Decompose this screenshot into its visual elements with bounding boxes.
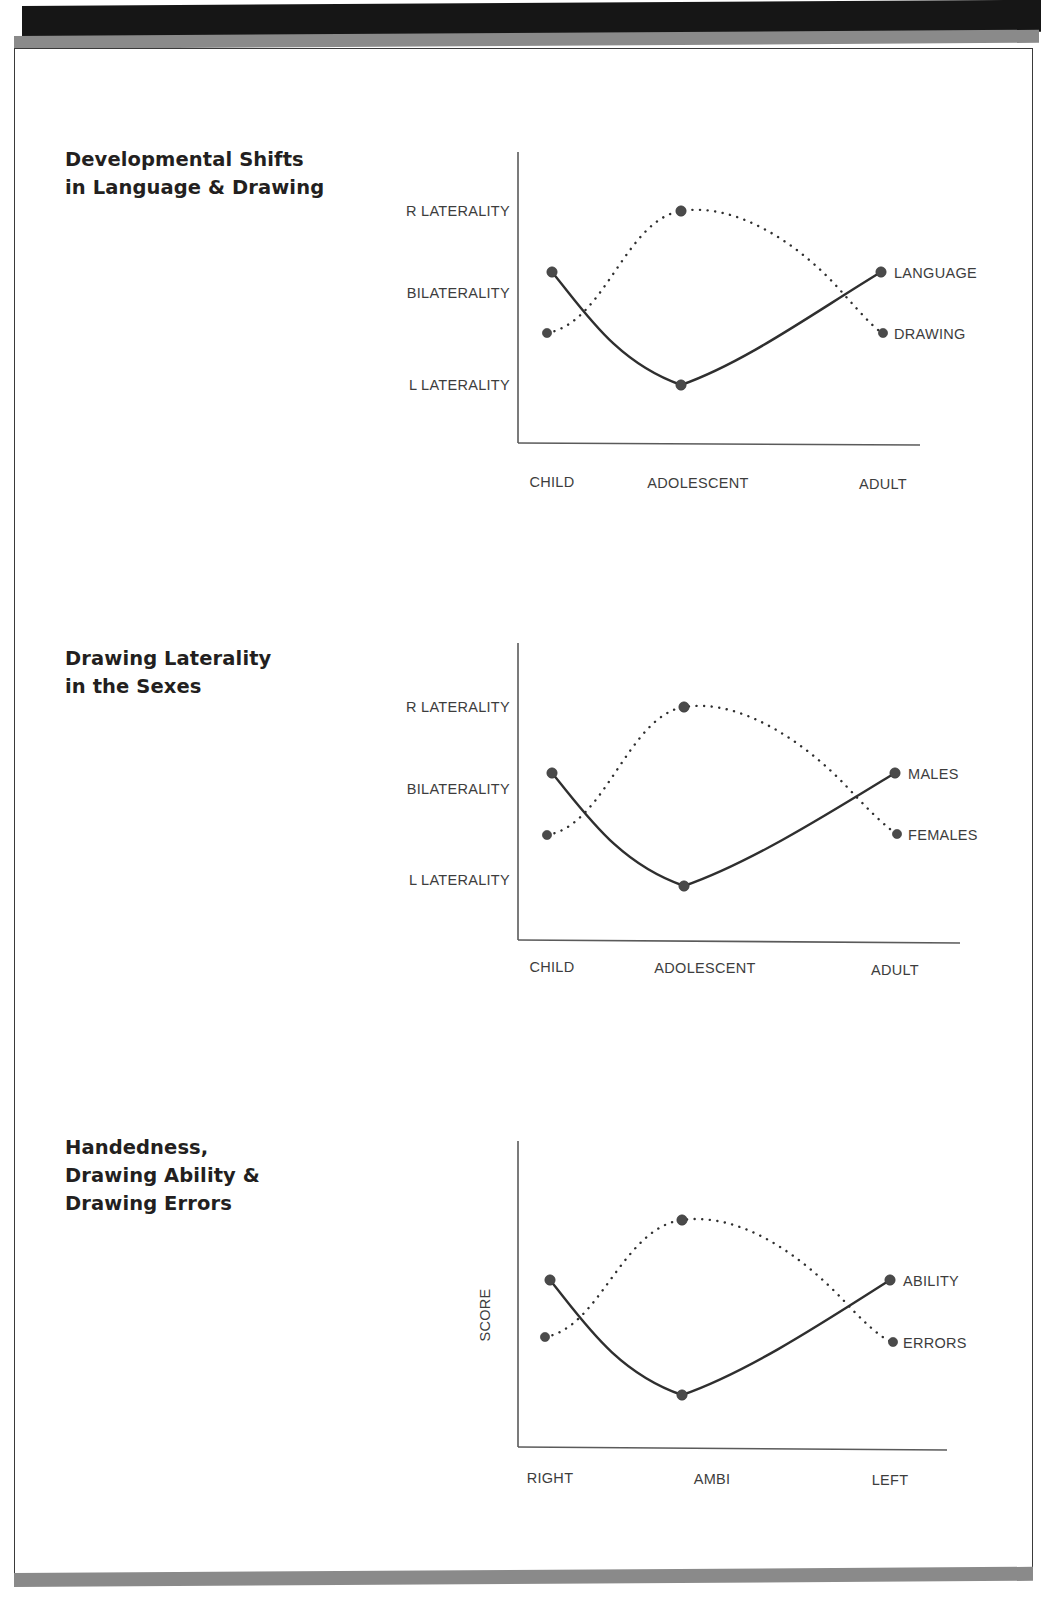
chart-3-solid-point-ambi bbox=[677, 1390, 687, 1400]
chart-2-solid-point-adolescent bbox=[679, 881, 689, 891]
chart-2-dotted-point-adolescent bbox=[679, 702, 689, 712]
section-title-developmental-shifts: Developmental Shifts in Language & Drawi… bbox=[65, 146, 324, 202]
chart-1-series-dotted-path bbox=[547, 210, 883, 333]
chart-handedness-ability-errors: SCORE RIGHT AMBI LEFT ABILITY ERRORS bbox=[450, 1125, 1010, 1495]
chart-1-dotted-point-adolescent bbox=[676, 206, 686, 216]
chart-3-xtick-0: RIGHT bbox=[527, 1470, 574, 1486]
chart-3-svg: SCORE RIGHT AMBI LEFT ABILITY ERRORS bbox=[450, 1125, 1010, 1495]
chart-2-xtick-2: ADULT bbox=[871, 962, 919, 978]
chart-3-series-solid-path bbox=[550, 1280, 890, 1395]
section-title-drawing-laterality-sexes: Drawing Laterality in the Sexes bbox=[65, 645, 271, 701]
chart-2-xtick-0: CHILD bbox=[529, 959, 574, 975]
chart-2-ytick-0: R LATERALITY bbox=[406, 699, 510, 715]
chart-3-dotted-point-left bbox=[888, 1337, 897, 1346]
chart-2-solid-point-child bbox=[547, 768, 557, 778]
page-canvas: Developmental Shifts in Language & Drawi… bbox=[0, 0, 1041, 1601]
chart-2-series-solid-path bbox=[552, 773, 895, 886]
chart-1-xtick-0: CHILD bbox=[529, 474, 574, 490]
chart-drawing-laterality-sexes: R LATERALITY BILATERALITY L LATERALITY C… bbox=[400, 630, 1000, 990]
chart-2-legend-solid: MALES bbox=[908, 766, 959, 782]
chart-1-ytick-0: R LATERALITY bbox=[406, 203, 510, 219]
chart-1-solid-point-child bbox=[547, 267, 557, 277]
chart-1-solid-point-adolescent bbox=[676, 380, 686, 390]
chart-3-y-axis-title: SCORE bbox=[477, 1288, 493, 1341]
section-title-handedness-ability-errors: Handedness, Drawing Ability & Drawing Er… bbox=[65, 1134, 260, 1218]
chart-1-legend-dotted: DRAWING bbox=[894, 326, 966, 342]
chart-2-legend-dotted: FEMALES bbox=[908, 827, 978, 843]
chart-2-ytick-2: L LATERALITY bbox=[409, 872, 510, 888]
chart-3-legend-solid: ABILITY bbox=[903, 1273, 959, 1289]
chart-3-dotted-point-ambi bbox=[677, 1215, 687, 1225]
chart-1-dotted-point-child bbox=[542, 328, 551, 337]
chart-1-legend-solid: LANGUAGE bbox=[894, 265, 977, 281]
chart-1-series-solid-path bbox=[552, 272, 881, 385]
chart-developmental-shifts: R LATERALITY BILATERALITY L LATERALITY C… bbox=[400, 140, 1000, 500]
chart-1-xtick-2: ADULT bbox=[859, 476, 907, 492]
chart-1-dotted-point-adult bbox=[878, 328, 887, 337]
chart-1-ytick-1: BILATERALITY bbox=[407, 285, 510, 301]
chart-1-solid-point-adult bbox=[876, 267, 886, 277]
chart-1-ytick-2: L LATERALITY bbox=[409, 377, 510, 393]
chart-2-x-axis bbox=[518, 940, 960, 943]
chart-3-xtick-1: AMBI bbox=[694, 1471, 731, 1487]
chart-3-dotted-point-right bbox=[540, 1332, 549, 1341]
chart-3-series-dotted-path bbox=[545, 1219, 893, 1342]
chart-3-solid-point-right bbox=[545, 1275, 555, 1285]
chart-2-xtick-1: ADOLESCENT bbox=[654, 960, 755, 976]
chart-2-dotted-point-child bbox=[542, 830, 551, 839]
chart-2-series-dotted-path bbox=[547, 706, 897, 835]
chart-1-x-axis bbox=[518, 443, 920, 445]
chart-3-legend-dotted: ERRORS bbox=[903, 1335, 967, 1351]
chart-1-xtick-1: ADOLESCENT bbox=[647, 475, 748, 491]
chart-2-ytick-1: BILATERALITY bbox=[407, 781, 510, 797]
chart-3-xtick-2: LEFT bbox=[872, 1472, 909, 1488]
chart-3-solid-point-left bbox=[885, 1275, 895, 1285]
chart-2-dotted-point-adult bbox=[892, 829, 901, 838]
chart-3-x-axis bbox=[518, 1447, 947, 1450]
chart-2-solid-point-adult bbox=[890, 768, 900, 778]
chart-2-svg: R LATERALITY BILATERALITY L LATERALITY C… bbox=[400, 630, 1000, 990]
chart-1-svg: R LATERALITY BILATERALITY L LATERALITY C… bbox=[400, 140, 1000, 500]
